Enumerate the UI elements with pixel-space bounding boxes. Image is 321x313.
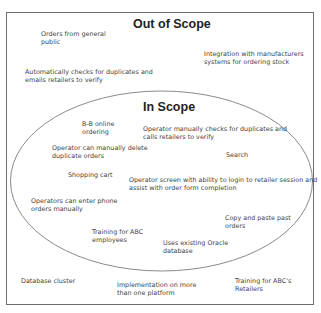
- in-scope-item: Operators can enter phone orders manuall…: [31, 197, 118, 214]
- out-of-scope-item: Automatically checks for duplicates and …: [25, 68, 153, 85]
- out-of-scope-title: Out of Scope: [133, 17, 211, 31]
- in-scope-item: Shopping cart: [68, 171, 113, 179]
- out-of-scope-item: Integration with manufacturers systems f…: [204, 50, 304, 67]
- in-scope-title: In Scope: [143, 100, 195, 114]
- in-scope-item: Operator manually checks for duplicates …: [143, 125, 287, 142]
- in-scope-item: B-B online ordering: [82, 120, 114, 137]
- out-of-scope-item: Database cluster: [21, 277, 75, 285]
- out-of-scope-item: Orders from general public: [41, 30, 106, 47]
- out-of-scope-item: Training for ABC's Retailers: [235, 277, 291, 294]
- in-scope-item: Copy and paste past orders: [225, 214, 291, 231]
- in-scope-item: Operator screen with ability to login to…: [129, 176, 317, 193]
- in-scope-item: Uses existing Oracle database: [163, 239, 228, 256]
- in-scope-item: Training for ABC employees: [92, 228, 143, 245]
- in-scope-item: Search: [226, 151, 248, 159]
- out-of-scope-item: Implementation on more than one platform: [117, 281, 196, 298]
- in-scope-ellipse: [0, 0, 321, 313]
- in-scope-item: Operator can manually delete duplicate o…: [52, 144, 148, 161]
